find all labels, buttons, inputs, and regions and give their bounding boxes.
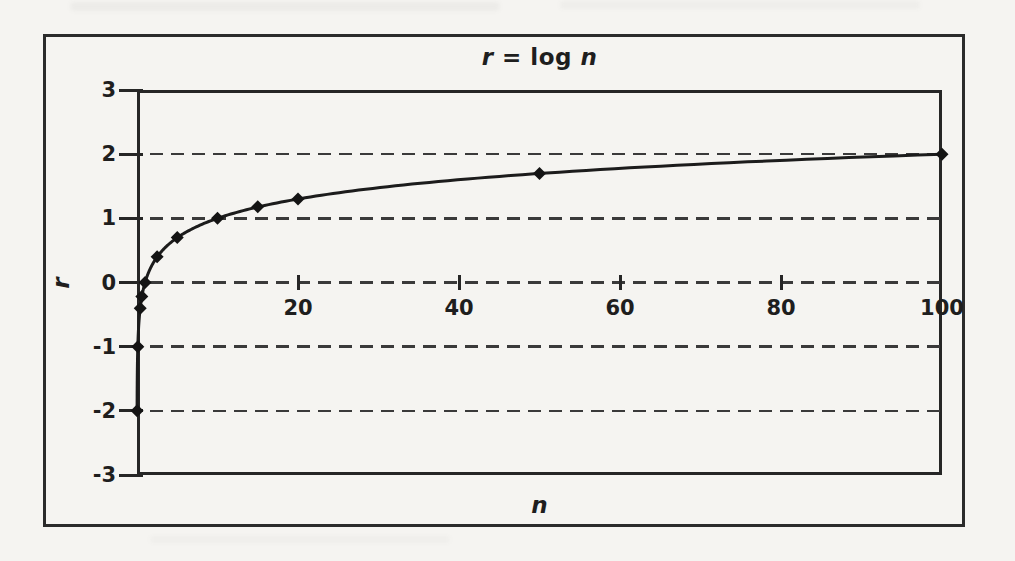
y-tick-mark	[119, 281, 143, 284]
gridline-dashed	[150, 153, 941, 156]
y-tick-label: -1	[64, 334, 116, 360]
y-tick-mark	[119, 409, 143, 412]
scanned-page: r = log n r n 3210-1-2-320406080100	[0, 0, 1015, 561]
gridline-dashed	[150, 217, 941, 220]
x-tick-label: 20	[263, 295, 333, 321]
y-tick-mark	[119, 217, 143, 220]
y-tick-label: 3	[64, 77, 116, 103]
gridline-dashed	[150, 281, 941, 284]
y-tick-label: -2	[64, 398, 116, 424]
x-tick-mark	[458, 275, 461, 290]
data-point-marker	[151, 250, 164, 263]
data-point-marker	[533, 167, 546, 180]
chart-layer: 3210-1-2-320406080100	[0, 0, 1015, 561]
data-point-marker	[171, 231, 184, 244]
x-tick-label: 40	[424, 295, 494, 321]
data-point-marker	[135, 290, 148, 303]
y-tick-label: 1	[64, 205, 116, 231]
y-tick-label: -3	[64, 462, 116, 488]
data-point-marker	[134, 302, 147, 315]
data-point-marker	[251, 200, 264, 213]
x-tick-mark	[619, 275, 622, 290]
x-tick-mark	[780, 275, 783, 290]
data-point-marker	[292, 193, 305, 206]
y-tick-mark	[119, 474, 143, 477]
y-tick-label: 2	[64, 141, 116, 167]
y-tick-mark	[119, 345, 143, 348]
y-tick-mark	[119, 153, 143, 156]
gridline-dashed	[150, 345, 941, 348]
y-tick-label: 0	[64, 270, 116, 296]
x-tick-label: 80	[746, 295, 816, 321]
x-tick-label: 60	[585, 295, 655, 321]
x-tick-label: 100	[907, 295, 977, 321]
y-tick-mark	[119, 89, 143, 92]
x-tick-mark	[297, 275, 300, 290]
gridline-dashed	[150, 410, 941, 413]
